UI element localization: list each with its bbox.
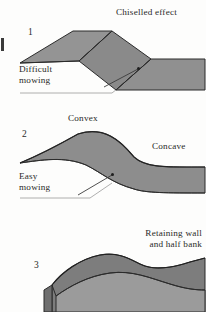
figure-number-1: 1 (28, 27, 33, 37)
figure-1-callout-line-1: Difficult (19, 64, 52, 75)
diagram-sheet: 1 Chiselled effect Difficult mowing 2 Co… (0, 0, 206, 312)
figure-1-callout-line-2: mowing (19, 75, 50, 86)
figure-1-chiselled-effect: 1 Chiselled effect Difficult mowing (0, 0, 206, 105)
figure-3-retaining-wall: 3 Retaining wall and half bank (0, 210, 206, 312)
callout-leader-line (78, 175, 112, 195)
figure-2-drawing (0, 105, 206, 210)
figure-1-title: Chiselled effect (116, 7, 177, 18)
figure-2-title-convex: Convex (68, 113, 98, 124)
margin-tick-mark (1, 38, 4, 51)
figure-3-title-line-1: Retaining wall (86, 228, 202, 239)
figure-2-callout-line-2: mowing (19, 182, 50, 193)
figure-number-3: 3 (34, 260, 39, 270)
figure-3-drawing (0, 210, 206, 312)
figure-2-title-concave: Concave (152, 141, 186, 152)
figure-3-title-line-2: and half bank (86, 239, 202, 250)
callout-leader-dot (137, 67, 140, 70)
figure-2-callout-line-1: Easy (19, 171, 38, 182)
figure-number-2: 2 (22, 129, 27, 139)
callout-leader-dot (111, 173, 114, 176)
retaining-wall-end (44, 285, 52, 312)
figure-2-convex-concave: 2 Convex Concave Easy mowing (0, 105, 206, 210)
